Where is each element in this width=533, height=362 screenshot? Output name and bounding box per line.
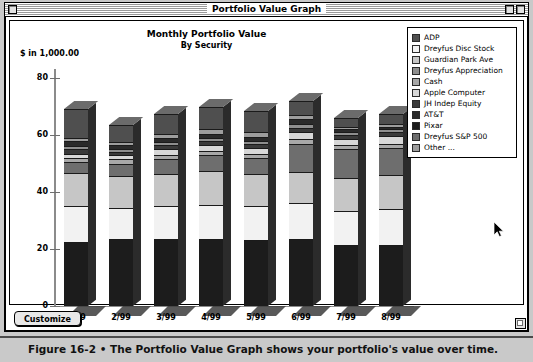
- table-row[interactable]: [64, 109, 88, 306]
- legend-item[interactable]: Other ...: [412, 142, 513, 153]
- legend-swatch-icon: [412, 89, 420, 97]
- bar-segment[interactable]: [199, 155, 223, 171]
- table-row[interactable]: [379, 114, 403, 306]
- y-axis-tick-label: 40: [22, 187, 48, 196]
- bar-segment[interactable]: [379, 136, 403, 143]
- legend-swatch-icon: [412, 122, 420, 130]
- x-axis-tick-label: 7/99: [323, 313, 369, 322]
- legend-item-label: Pixar: [424, 121, 443, 131]
- legend-swatch-icon: [412, 133, 420, 141]
- x-axis-tick-label: 3/99: [143, 313, 189, 322]
- bar-segment[interactable]: [64, 173, 88, 206]
- legend-item[interactable]: Dreyfus Disc Stock: [412, 43, 513, 54]
- legend-item-label: JH Indep Equity: [424, 99, 481, 109]
- bar-segment[interactable]: [64, 242, 88, 306]
- collapse-box-icon[interactable]: [516, 5, 525, 14]
- bar-segment[interactable]: [334, 211, 358, 245]
- bar-segment[interactable]: [199, 239, 223, 306]
- bar-segment[interactable]: [334, 245, 358, 306]
- bar-segment[interactable]: [109, 239, 133, 306]
- bar-segment[interactable]: [244, 240, 268, 306]
- bar-segment[interactable]: [109, 164, 133, 177]
- y-axis-tick-label: 20: [22, 244, 48, 253]
- bar-segment[interactable]: [379, 175, 403, 209]
- bar-segment[interactable]: [154, 114, 178, 134]
- window-title-bar[interactable]: Portfolio Value Graph: [5, 3, 528, 17]
- customize-button[interactable]: Customize: [14, 311, 81, 326]
- bar-segment[interactable]: [199, 205, 223, 239]
- bar-segment[interactable]: [244, 206, 268, 240]
- window-title-text: Portfolio Value Graph: [207, 4, 326, 14]
- bar-segment[interactable]: [109, 208, 133, 239]
- bar-segment[interactable]: [289, 239, 313, 306]
- bar-segment[interactable]: [109, 125, 133, 142]
- bar-segment[interactable]: [154, 239, 178, 306]
- bar-segment[interactable]: [379, 245, 403, 306]
- legend-item[interactable]: ADP: [412, 32, 513, 43]
- legend-item-label: Cash: [424, 77, 443, 87]
- legend-item[interactable]: Guardian Park Ave: [412, 54, 513, 65]
- bar-segment[interactable]: [334, 118, 358, 127]
- bar-segment[interactable]: [334, 178, 358, 211]
- table-row[interactable]: [244, 111, 268, 306]
- bar-side-face: [223, 100, 231, 306]
- legend-item-label: Dreyfus Appreciation: [424, 66, 503, 76]
- bar-segment[interactable]: [379, 148, 403, 175]
- legend-item-label: Dreyfus Disc Stock: [424, 44, 494, 54]
- bar-segment[interactable]: [244, 111, 268, 132]
- legend-item[interactable]: Dreyfus S&P 500: [412, 131, 513, 142]
- table-row[interactable]: [289, 101, 313, 306]
- legend-item-label: Guardian Park Ave: [424, 55, 493, 65]
- y-axis-tick: [50, 135, 60, 136]
- y-axis-tick: [50, 78, 60, 79]
- table-row[interactable]: [199, 107, 223, 306]
- grow-box-icon[interactable]: [515, 318, 526, 329]
- bar-segment[interactable]: [64, 206, 88, 242]
- bar-segment[interactable]: [64, 109, 88, 138]
- bar-segment[interactable]: [334, 149, 358, 178]
- bar-side-face: [133, 119, 141, 306]
- chart-legend: ADPDreyfus Disc StockGuardian Park AveDr…: [407, 27, 517, 158]
- legend-item[interactable]: AT&T: [412, 109, 513, 120]
- legend-swatch-icon: [412, 100, 420, 108]
- table-row[interactable]: [334, 118, 358, 306]
- y-axis-tick: [50, 192, 60, 193]
- table-row[interactable]: [109, 125, 133, 306]
- legend-item[interactable]: JH Indep Equity: [412, 98, 513, 109]
- bar-segment[interactable]: [154, 206, 178, 239]
- y-axis-tick-label: 60: [22, 130, 48, 139]
- plot-area: 020406080 1/992/993/994/995/996/997/998/…: [38, 69, 414, 317]
- bar-segment[interactable]: [244, 158, 268, 174]
- x-axis-tick-label: 4/99: [188, 313, 234, 322]
- legend-item[interactable]: Dreyfus Appreciation: [412, 65, 513, 76]
- legend-item-label: Other ...: [424, 143, 455, 153]
- legend-item[interactable]: Pixar: [412, 120, 513, 131]
- bar-segment[interactable]: [64, 162, 88, 173]
- bar-segment[interactable]: [199, 107, 223, 130]
- bar-segment[interactable]: [289, 172, 313, 203]
- y-axis-tick-label: 80: [22, 73, 48, 82]
- bar-segment[interactable]: [379, 209, 403, 245]
- bar-segment[interactable]: [109, 176, 133, 207]
- legend-swatch-icon: [412, 67, 420, 75]
- bar-segment[interactable]: [289, 203, 313, 239]
- bar-segment[interactable]: [289, 132, 313, 139]
- bar-segment[interactable]: [289, 144, 313, 173]
- bar-segment[interactable]: [154, 159, 178, 173]
- table-row[interactable]: [154, 114, 178, 306]
- legend-swatch-icon: [412, 144, 420, 152]
- bar-side-face: [178, 107, 186, 306]
- bar-segment[interactable]: [154, 174, 178, 207]
- legend-item[interactable]: Cash: [412, 76, 513, 87]
- legend-swatch-icon: [412, 78, 420, 86]
- graph-pane: Monthly Portfolio Value By Security $ in…: [9, 20, 524, 305]
- bar-segment[interactable]: [199, 171, 223, 205]
- zoom-box-icon[interactable]: [505, 5, 514, 14]
- legend-item[interactable]: Apple Computer: [412, 87, 513, 98]
- bar-segment[interactable]: [244, 174, 268, 207]
- legend-swatch-icon: [412, 34, 420, 42]
- bar-segment[interactable]: [289, 101, 313, 115]
- legend-item-label: AT&T: [424, 110, 444, 120]
- bar-segment[interactable]: [379, 114, 403, 124]
- chart-title-main: Monthly Portfolio Value: [10, 29, 403, 40]
